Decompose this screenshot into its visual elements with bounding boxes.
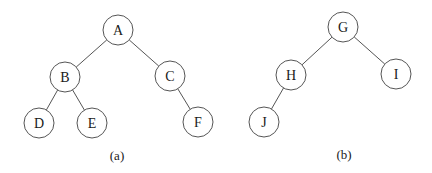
nodes-layer: ABCDEFGHIJ: [24, 12, 411, 138]
tree-node-f: F: [183, 107, 213, 137]
node-label: B: [60, 70, 69, 85]
node-label: G: [338, 20, 348, 35]
caption-a: (a): [110, 148, 124, 163]
edge-a-c: [129, 40, 159, 66]
caption-b: (b): [336, 147, 351, 162]
node-label: J: [261, 115, 267, 130]
tree-node-i: I: [381, 59, 411, 89]
edge-g-h: [302, 37, 332, 65]
edge-g-i: [354, 37, 385, 64]
tree-node-c: C: [155, 61, 185, 91]
tree-node-j: J: [249, 107, 279, 137]
edge-c-f: [178, 89, 190, 109]
edge-h-j: [271, 88, 283, 109]
node-label: A: [113, 23, 124, 38]
edges-layer: [46, 37, 384, 110]
node-label: C: [165, 69, 174, 84]
tree-node-d: D: [24, 108, 54, 138]
node-label: H: [286, 68, 296, 83]
node-label: I: [394, 67, 399, 82]
binary-trees-figure: ABCDEFGHIJ (a) (b): [0, 0, 432, 173]
tree-node-h: H: [276, 60, 306, 90]
edge-a-b: [76, 40, 107, 67]
node-label: F: [194, 115, 202, 130]
edge-b-d: [46, 90, 57, 110]
tree-node-g: G: [328, 12, 358, 42]
tree-node-b: B: [50, 62, 80, 92]
edge-b-e: [73, 90, 85, 110]
tree-node-e: E: [77, 108, 107, 138]
tree-node-a: A: [103, 15, 133, 45]
node-label: E: [88, 116, 97, 131]
node-label: D: [34, 116, 44, 131]
